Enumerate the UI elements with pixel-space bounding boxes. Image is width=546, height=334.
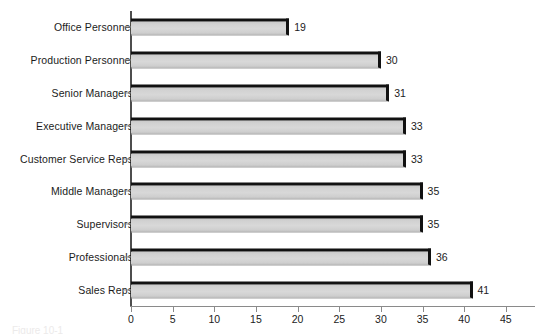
bar-value-label: 30 [386,55,398,66]
bar-row: Production Personnel30 [0,44,546,77]
x-axis-tick-label: 15 [250,314,262,325]
x-axis-tick-label: 40 [458,314,470,325]
bar-value-label: 35 [428,186,440,197]
bar [131,216,423,233]
category-label: Executive Managers [36,121,133,132]
bar-value-label: 33 [411,153,423,164]
plot-area: Office Personnel19Production Personnel30… [0,0,546,334]
category-tick [124,256,131,257]
bar [131,117,406,134]
category-label: Customer Service Reps [20,153,133,164]
x-axis-tick [214,306,215,312]
x-axis-tick [423,306,424,312]
bar [131,248,431,265]
x-axis-tick-label: 45 [500,314,512,325]
bar-value-label: 35 [428,219,440,230]
bar [131,281,473,298]
bar-row: Office Personnel19 [0,11,546,44]
bar-row: Middle Managers35 [0,175,546,208]
bar [131,19,289,36]
x-axis-tick-label: 5 [170,314,176,325]
x-axis-tick [506,306,507,312]
bar-row: Customer Service Reps33 [0,142,546,175]
bar-value-label: 33 [411,121,423,132]
x-axis-tick [339,306,340,312]
x-axis-tick [381,306,382,312]
x-axis-tick [464,306,465,312]
bar-value-label: 19 [294,22,306,33]
bar [131,183,423,200]
x-axis-tick [256,306,257,312]
bar-row: Executive Managers33 [0,109,546,142]
bar [131,84,389,101]
category-tick [124,191,131,192]
bar [131,150,406,167]
bar-row: Supervisors35 [0,208,546,241]
bar-row: Professionals36 [0,241,546,274]
bar-value-label: 31 [394,88,406,99]
bar [131,52,381,69]
category-label: Office Personnel [54,22,133,33]
category-tick [124,92,131,93]
x-axis-tick-label: 0 [128,314,134,325]
bar-chart: Office Personnel19Production Personnel30… [0,0,546,334]
category-label: Production Personnel [31,55,133,66]
bar-row: Sales Reps41 [0,273,546,306]
x-axis-tick [298,306,299,312]
x-axis-tick-label: 30 [375,314,387,325]
x-axis-tick [173,306,174,312]
category-tick [124,60,131,61]
x-axis-tick [131,306,132,312]
bar-value-label: 36 [436,252,448,263]
category-tick [124,27,131,28]
bar-row: Senior Managers31 [0,77,546,110]
category-tick [124,158,131,159]
category-label: Senior Managers [52,88,133,99]
x-axis-tick-label: 10 [208,314,220,325]
bar-value-label: 41 [478,285,490,296]
x-axis-tick-label: 20 [292,314,304,325]
category-label: Middle Managers [51,186,133,197]
x-axis-tick-label: 25 [333,314,345,325]
x-axis-tick-label: 35 [417,314,429,325]
category-tick [124,289,131,290]
category-tick [124,224,131,225]
figure-caption-sliver: Figure 10-1 [12,326,63,334]
category-tick [124,125,131,126]
